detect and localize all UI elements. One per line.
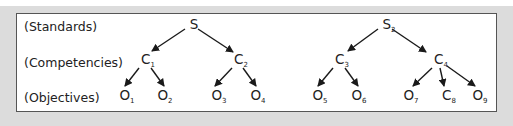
edge-c1-o2	[151, 68, 164, 86]
edge-c3-o5	[318, 68, 333, 86]
edge-c2-o4	[243, 68, 256, 86]
node-c4-sub: 4	[443, 61, 447, 69]
node-o9: O9	[472, 89, 487, 105]
node-o9-sub: 9	[483, 97, 487, 105]
node-o3: O3	[211, 89, 226, 105]
node-o4-base: O	[250, 87, 261, 103]
edge-c4-o7	[413, 68, 432, 86]
node-o4-sub: 4	[261, 97, 265, 105]
row-label-competencies: (Competencies)	[24, 55, 123, 70]
node-o5-base: O	[312, 87, 323, 103]
edge-s1-c1	[152, 29, 185, 51]
node-o1: O1	[119, 89, 134, 105]
node-o1-sub: 1	[130, 97, 134, 105]
node-c1-sub: 1	[150, 61, 154, 69]
node-o5: O5	[312, 89, 327, 105]
node-o7-base: O	[403, 87, 414, 103]
edge-c4-o9	[447, 66, 475, 86]
node-o3-sub: 3	[222, 97, 226, 105]
node-c1: C1	[141, 53, 155, 69]
node-s2: S2	[382, 18, 395, 34]
node-o6-base: O	[351, 87, 362, 103]
row-label-objectives: (Objectives)	[24, 90, 100, 105]
node-o9-base: O	[472, 87, 483, 103]
node-o7-sub: 7	[414, 97, 418, 105]
node-o7: O7	[403, 89, 418, 105]
node-c8: C8	[442, 89, 456, 105]
node-o3-base: O	[211, 87, 222, 103]
node-c2-sub: 2	[243, 61, 247, 69]
edge-c2-o3	[215, 68, 232, 86]
node-s1: S	[190, 18, 199, 34]
node-o4: O4	[250, 89, 265, 105]
node-o6: O6	[351, 89, 366, 105]
node-c8-sub: 8	[451, 97, 455, 105]
edge-c4-c8	[440, 68, 444, 86]
node-o5-sub: 5	[323, 97, 327, 105]
node-o2-base: O	[157, 87, 168, 103]
node-s2-base: S	[382, 16, 391, 32]
node-o2-sub: 2	[168, 97, 172, 105]
edge-c1-o1	[125, 68, 139, 86]
edge-c3-o6	[345, 68, 358, 86]
node-s1-base: S	[190, 16, 199, 32]
node-c3-sub: 3	[344, 61, 348, 69]
edge-s1-c2	[198, 29, 233, 52]
node-o1-base: O	[119, 87, 130, 103]
node-c2: C2	[234, 53, 248, 69]
node-o6-sub: 6	[362, 97, 366, 105]
row-label-standards: (Standards)	[24, 19, 97, 34]
edge-s2-c3	[348, 29, 378, 51]
node-c3: C3	[335, 53, 349, 69]
node-s2-sub: 2	[391, 26, 395, 34]
edge-s2-c4	[392, 29, 426, 52]
node-o2: O2	[157, 89, 172, 105]
node-c4: C4	[434, 53, 448, 69]
